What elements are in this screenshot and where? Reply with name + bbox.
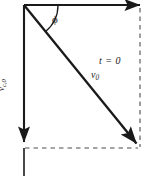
vector-diagram-canvas	[0, 0, 151, 180]
angle-label-phi: ϕ	[52, 14, 58, 25]
vector-diagram: ϕ t = 0 v0 vc,0	[0, 0, 151, 180]
vertical-velocity-subscript: c,0	[0, 79, 7, 87]
time-label: t = 0	[99, 56, 121, 66]
resultant-velocity-arrow	[24, 5, 137, 144]
resultant-velocity-label: v0	[91, 70, 99, 82]
resultant-velocity-subscript: 0	[95, 74, 99, 82]
vertical-velocity-symbol: v	[0, 87, 6, 91]
vertical-velocity-label: vc,0	[0, 79, 7, 91]
